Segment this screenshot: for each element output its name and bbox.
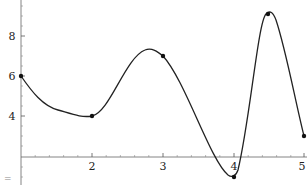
data-point [19,74,23,78]
data-points [19,12,306,179]
data-point [161,54,165,58]
data-point [302,134,306,138]
x-major-ticks [92,153,304,157]
x-tick-label-5: 5 [299,160,306,173]
x-tick-label-3: 3 [160,160,167,173]
y-tick-label-6: 6 [9,70,16,83]
data-point [90,114,94,118]
data-point [232,175,236,179]
chart: 8 6 4 2 3 4 5 = [0,0,307,185]
x-tick-label-2: 2 [89,160,96,173]
x-tick-label-4: 4 [231,160,238,173]
series-curve [21,12,304,176]
y-tick-label-8: 8 [9,30,16,43]
y-tick-label-4: 4 [9,110,16,123]
clipped-label: = [4,174,12,184]
data-point [266,12,270,16]
